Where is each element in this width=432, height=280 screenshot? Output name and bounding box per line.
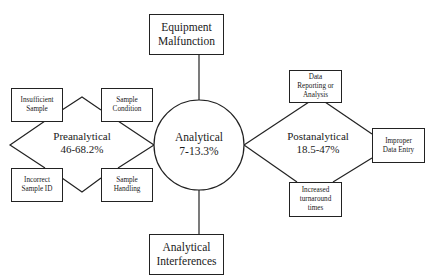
postanalytical-range: 18.5-47%	[276, 143, 360, 156]
preanalytical-title: Preanalytical	[40, 130, 124, 143]
sample-handling-box: Sample Handling	[101, 168, 153, 202]
analytical-title: Analytical	[175, 131, 223, 145]
preanalytical-range: 46-68.2%	[40, 143, 124, 156]
data-reporting-box: Data Reporting or Analysis	[289, 70, 342, 103]
insufficient-sample-box: Insufficient Sample	[11, 88, 63, 122]
incorrect-sample-id-box: Incorrect Sample ID	[11, 168, 63, 202]
analytical-interferences-label: Analytical Interferences	[156, 241, 216, 267]
equipment-malfunction-label: Equipment Malfunction	[158, 21, 215, 47]
analytical-interferences-box: Analytical Interferences	[149, 234, 224, 275]
improper-data-entry-label: Improper Data Entry	[383, 137, 414, 155]
incorrect-sample-id-label: Incorrect Sample ID	[22, 176, 53, 194]
equipment-malfunction-box: Equipment Malfunction	[149, 14, 224, 55]
improper-data-entry-box: Improper Data Entry	[372, 128, 425, 163]
preanalytical-label: Preanalytical 46-68.2%	[40, 130, 124, 156]
analytical-range: 7-13.3%	[179, 145, 218, 159]
analytical-circle: Analytical 7-13.3%	[154, 100, 244, 190]
insufficient-sample-label: Insufficient Sample	[21, 96, 54, 114]
increased-turnaround-label: Increased turnaround times	[300, 186, 332, 213]
sample-condition-box: Sample Condition	[101, 88, 153, 122]
postanalytical-title: Postanalytical	[276, 130, 360, 143]
postanalytical-label: Postanalytical 18.5-47%	[276, 130, 360, 156]
sample-condition-label: Sample Condition	[113, 96, 142, 114]
sample-handling-label: Sample Handling	[114, 176, 141, 194]
increased-turnaround-box: Increased turnaround times	[289, 182, 342, 217]
data-reporting-label: Data Reporting or Analysis	[297, 73, 334, 100]
